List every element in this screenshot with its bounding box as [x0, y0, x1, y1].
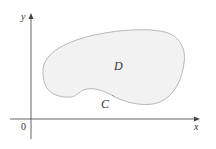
region-label-d: D	[114, 60, 123, 72]
curve-label-c: C	[101, 98, 109, 110]
diagram-canvas: y x 0 D C	[0, 0, 216, 149]
y-axis-arrow-icon	[29, 13, 34, 19]
origin-label: 0	[21, 122, 26, 132]
diagram-svg	[0, 0, 216, 149]
x-axis-label: x	[194, 122, 198, 132]
y-axis-label: y	[21, 12, 25, 22]
